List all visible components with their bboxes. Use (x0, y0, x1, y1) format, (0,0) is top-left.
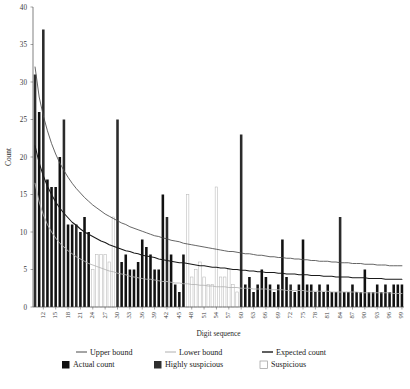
legend-label: Upper bound (90, 348, 132, 357)
bar-suspicious (228, 270, 231, 308)
legend-marker-swatch (62, 361, 70, 369)
bar-actual (322, 292, 325, 307)
bar-actual (401, 285, 404, 308)
bar-actual (162, 195, 165, 308)
bar-actual (277, 285, 280, 308)
x-tick-label: 57 (224, 311, 231, 318)
bar-actual (331, 292, 334, 307)
bar-actual (261, 270, 264, 308)
x-tick-label: 21 (76, 312, 83, 319)
bar-actual (67, 225, 70, 308)
bar-actual (269, 285, 272, 308)
bar-actual (359, 292, 362, 307)
bar-suspicious (236, 292, 239, 307)
bar-actual (298, 285, 301, 308)
x-tick-label: 96 (385, 311, 392, 318)
bar-actual (347, 292, 350, 307)
bar-actual (384, 285, 387, 308)
line-upper-bound (35, 67, 402, 266)
y-tick-label: 20 (20, 154, 28, 162)
bar-suspicious (100, 255, 103, 308)
x-axis-ticks: 1215182124273033363942454851545760636669… (39, 307, 405, 319)
bar-suspicious (104, 255, 107, 308)
x-tick-label: 81 (323, 312, 330, 319)
bar-actual (50, 187, 53, 307)
bar-actual (129, 270, 132, 308)
bar-suspicious (203, 277, 206, 307)
bar-suspicious (207, 285, 210, 308)
bar-actual (343, 292, 346, 307)
bar-suspicious (195, 270, 198, 308)
x-tick-label: 12 (39, 312, 46, 319)
bar-actual (265, 277, 268, 307)
x-tick-label: 84 (336, 311, 343, 318)
bar-actual (153, 270, 156, 308)
bar-actual (124, 255, 127, 308)
x-tick-label: 60 (237, 311, 244, 318)
bar-suspicious (186, 195, 189, 308)
x-tick-label: 33 (125, 311, 132, 318)
bar-suspicious (219, 277, 222, 307)
x-tick-label: 51 (200, 312, 207, 319)
x-tick-label: 63 (249, 311, 256, 318)
y-axis-title: Count (4, 147, 13, 166)
bar-actual (302, 240, 305, 308)
line-series (35, 67, 402, 294)
x-tick-label: 18 (64, 311, 71, 318)
bar-actual (137, 262, 140, 307)
bar-suspicious (91, 270, 94, 308)
bar-actual (252, 292, 255, 307)
x-tick-label: 39 (150, 311, 157, 318)
bar-actual (133, 270, 136, 308)
x-tick-label: 66 (261, 311, 268, 318)
bar-suspicious (190, 277, 193, 307)
bar-actual (256, 285, 259, 308)
bar-actual (380, 292, 383, 307)
y-tick-label: 25 (20, 116, 28, 124)
chart-container: 0510152025303540 12151821242730333639424… (0, 0, 410, 389)
x-tick-label: 90 (360, 311, 367, 318)
bar-suspicious (211, 285, 214, 308)
bar-actual (79, 232, 82, 307)
bar-actual (54, 187, 57, 307)
legend-marker-swatch (260, 361, 268, 369)
bar-highly_suspicious (339, 217, 342, 307)
bar-series (34, 30, 403, 308)
y-tick-label: 10 (20, 229, 28, 237)
bar-actual (388, 292, 391, 307)
x-tick-label: 99 (397, 311, 404, 318)
bar-actual (71, 225, 74, 308)
bar-actual (335, 292, 338, 307)
chart-legend: Upper boundLower boundExpected countActu… (62, 348, 327, 369)
bar-actual (351, 285, 354, 308)
bar-suspicious (223, 277, 226, 307)
x-tick-label: 42 (162, 312, 169, 319)
bar-suspicious (112, 217, 115, 307)
y-tick-label: 40 (20, 4, 28, 12)
bar-actual (364, 270, 367, 308)
bar-actual (376, 285, 379, 308)
bar-actual (170, 255, 173, 308)
bar-actual (372, 292, 375, 307)
bar-suspicious (96, 255, 99, 308)
y-tick-label: 30 (20, 79, 28, 87)
bar-highly_suspicious (116, 120, 119, 308)
bar-suspicious (215, 187, 218, 307)
bar-actual (306, 285, 309, 308)
bar-suspicious (108, 262, 111, 307)
bar-actual (87, 232, 90, 307)
bar-actual (318, 285, 321, 308)
bar-highly_suspicious (289, 285, 292, 308)
x-tick-label: 75 (299, 311, 306, 318)
bar-actual (392, 285, 395, 308)
bar-actual (248, 277, 251, 307)
bar-highly_suspicious (75, 225, 78, 308)
y-tick-label: 15 (20, 191, 28, 199)
x-tick-label: 30 (113, 311, 120, 318)
x-tick-label: 87 (348, 311, 355, 318)
bar-actual (293, 292, 296, 307)
y-tick-label: 5 (23, 266, 27, 274)
x-tick-label: 15 (51, 311, 58, 318)
bar-actual (285, 277, 288, 307)
x-tick-label: 45 (175, 311, 182, 318)
